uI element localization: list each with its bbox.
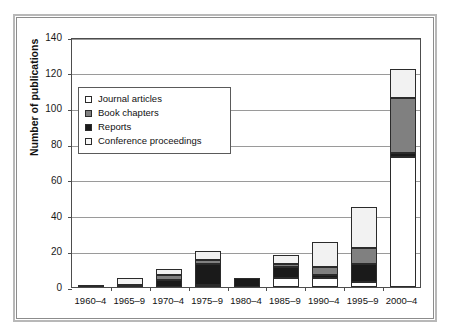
y-axis-tick-label: 20 <box>0 246 62 257</box>
x-axis-tick <box>189 287 190 291</box>
bar-segment[interactable] <box>78 285 104 287</box>
x-axis-tick-label: 1990–4 <box>304 295 343 306</box>
bar-segment[interactable] <box>273 267 299 278</box>
bar-segment[interactable] <box>351 264 377 282</box>
bar-segment[interactable] <box>156 269 182 274</box>
bar-segment[interactable] <box>195 264 221 285</box>
figure-canvas: Number of publications 02040608010012014… <box>0 0 450 336</box>
bar-segment[interactable] <box>351 248 377 264</box>
plot-area <box>71 38 421 288</box>
y-axis-tick-label: 60 <box>0 175 62 186</box>
legend-item[interactable]: Journal articles <box>85 92 224 106</box>
bar-segment[interactable] <box>195 260 221 264</box>
x-axis-tick-label: 1980–4 <box>227 295 266 306</box>
bar-segment[interactable] <box>195 285 221 287</box>
y-axis-tick-label: 140 <box>0 32 62 43</box>
legend-swatch-icon <box>85 124 92 131</box>
bar-segment[interactable] <box>312 242 338 267</box>
bar-segment[interactable] <box>390 69 416 98</box>
bar-stack[interactable] <box>390 37 416 287</box>
bar-segment[interactable] <box>117 278 143 285</box>
y-axis-tick <box>68 39 72 40</box>
bar-segment[interactable] <box>390 98 416 153</box>
legend-item-label: Book chapters <box>98 108 159 118</box>
x-axis-tick-label: 1960–4 <box>71 295 110 306</box>
y-axis-title-wrap: Number of publications <box>34 60 48 260</box>
y-axis-tick <box>68 74 72 75</box>
x-axis-tick-label: 1965–9 <box>110 295 149 306</box>
x-axis-tick-label: 1970–4 <box>149 295 188 306</box>
legend-item-label: Journal articles <box>98 94 162 104</box>
bar-segment[interactable] <box>234 278 260 287</box>
bar-stack[interactable] <box>156 37 182 287</box>
bar-stack[interactable] <box>117 37 143 287</box>
legend-item-label: Conference proceedings <box>98 136 202 146</box>
bar-segment[interactable] <box>156 280 182 287</box>
bar-stack[interactable] <box>234 37 260 287</box>
legend-swatch-icon <box>85 96 92 103</box>
y-axis-title: Number of publications <box>28 6 40 156</box>
bar-stack[interactable] <box>195 37 221 287</box>
bar-segment[interactable] <box>312 267 338 274</box>
x-axis-tick-label: 1975–9 <box>188 295 227 306</box>
y-axis-tick <box>68 181 72 182</box>
y-axis-tick <box>68 146 72 147</box>
bar-stack[interactable] <box>312 37 338 287</box>
bar-stack[interactable] <box>273 37 299 287</box>
x-axis-tick <box>383 287 384 291</box>
legend-item[interactable]: Conference proceedings <box>85 134 224 148</box>
x-axis-tick <box>228 287 229 291</box>
y-axis-tick <box>68 217 72 218</box>
legend-swatch-icon <box>85 110 92 117</box>
legend-swatch-icon <box>85 138 92 145</box>
bar-segment[interactable] <box>351 207 377 248</box>
chart-legend: Journal articlesBook chaptersReportsConf… <box>78 87 231 154</box>
x-axis-tick <box>266 287 267 291</box>
bar-stack[interactable] <box>78 37 104 287</box>
y-axis-tick-label: 120 <box>0 68 62 79</box>
x-axis-tick-label: 1995–9 <box>343 295 382 306</box>
bar-segment[interactable] <box>390 157 416 287</box>
bar-segment[interactable] <box>273 278 299 287</box>
bar-segment[interactable] <box>312 275 338 279</box>
y-axis-tick-label: 0 <box>0 282 62 293</box>
y-axis-tick <box>68 110 72 111</box>
bar-segment[interactable] <box>390 153 416 157</box>
x-axis-tick-label: 1985–9 <box>265 295 304 306</box>
x-axis-tick <box>111 287 112 291</box>
x-axis-tick <box>344 287 345 291</box>
y-axis-tick-label: 80 <box>0 139 62 150</box>
bar-segment[interactable] <box>273 255 299 264</box>
bar-segment[interactable] <box>156 275 182 280</box>
x-axis-tick <box>305 287 306 291</box>
y-axis-tick <box>68 289 72 290</box>
y-axis-tick-label: 40 <box>0 211 62 222</box>
bar-segment[interactable] <box>351 282 377 287</box>
y-axis-tick-label: 100 <box>0 103 62 114</box>
bar-stack[interactable] <box>351 37 377 287</box>
bar-segment[interactable] <box>312 278 338 287</box>
bar-segment[interactable] <box>117 285 143 287</box>
x-axis-tick <box>150 287 151 291</box>
legend-item[interactable]: Reports <box>85 120 224 134</box>
bar-segment[interactable] <box>273 264 299 268</box>
y-axis-tick <box>68 253 72 254</box>
bar-segment[interactable] <box>195 251 221 260</box>
legend-item[interactable]: Book chapters <box>85 106 224 120</box>
x-axis-tick-label: 2000–4 <box>382 295 421 306</box>
legend-item-label: Reports <box>98 122 131 132</box>
